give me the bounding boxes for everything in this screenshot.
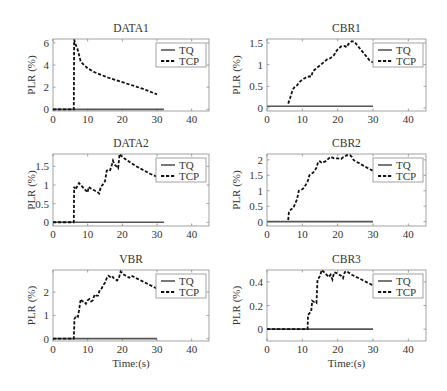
x-tick-label: 20 (332, 343, 344, 355)
y-tick-label: 0.5 (35, 198, 49, 210)
legend-label-tcp: TCP (396, 170, 416, 182)
y-tick-label: 0 (258, 323, 264, 335)
x-tick-label: 0 (50, 343, 56, 355)
x-tick-label: 10 (297, 228, 309, 240)
y-tick-label: 4 (44, 59, 50, 71)
x-tick-label: 30 (152, 343, 164, 355)
y-axis-label: PLR (%) (25, 170, 38, 210)
y-tick-label: 1 (44, 309, 50, 321)
y-tick-label: 1 (44, 179, 50, 191)
y-axis-label: PLR (%) (25, 285, 38, 325)
x-tick-label: 20 (117, 228, 129, 240)
legend-label-tcp: TCP (179, 286, 199, 298)
y-tick-label: 0 (44, 216, 50, 228)
y-tick-label: 0 (44, 333, 50, 345)
y-axis-label: PLR (%) (230, 170, 243, 210)
subplot-data1: 0102030400246DATA1PLR (%)TQTCP (25, 22, 209, 125)
x-tick-label: 10 (82, 228, 94, 240)
legend: TQTCP (373, 43, 423, 67)
x-tick-label: 40 (403, 228, 415, 240)
x-tick-label: 10 (297, 343, 309, 355)
chart-title: CBR2 (332, 137, 361, 149)
chart-title: VBR (119, 253, 143, 265)
y-tick-label: 2 (44, 81, 50, 93)
x-tick-label: 40 (186, 228, 198, 240)
x-tick-label: 40 (403, 113, 415, 125)
y-tick-label: 2 (258, 154, 264, 166)
y-tick-label: 1.5 (35, 160, 49, 172)
y-tick-label: 1 (258, 59, 264, 71)
legend: TQTCP (373, 158, 423, 182)
y-tick-label: 6 (44, 37, 50, 49)
x-tick-label: 20 (117, 113, 129, 125)
figure-canvas: 0102030400246DATA1PLR (%)TQTCP0102030400… (0, 0, 447, 391)
y-tick-label: 1 (258, 185, 264, 197)
y-axis-label: PLR (%) (230, 285, 243, 325)
y-tick-label: 0 (258, 216, 264, 228)
legend: TQTCP (156, 274, 206, 298)
x-tick-label: 40 (186, 343, 198, 355)
subplot-cbr3: 01020304000.20.4CBR3PLR (%)Time:(s)TQTCP (230, 253, 426, 370)
x-tick-label: 0 (264, 228, 270, 240)
y-tick-label: 0.4 (249, 276, 263, 288)
x-tick-label: 0 (264, 343, 270, 355)
legend: TQTCP (373, 274, 423, 298)
chart-title: CBR1 (332, 22, 361, 34)
legend: TQTCP (156, 43, 206, 67)
subplot-cbr1: 01020304000.511.5CBR1PLR (%)TQTCP (230, 22, 426, 125)
y-tick-label: 0.2 (249, 300, 263, 312)
x-tick-label: 30 (152, 113, 164, 125)
chart-title: DATA2 (113, 137, 149, 149)
subplot-data2: 01020304000.511.5DATA2PLR (%)TQTCP (25, 137, 209, 240)
x-tick-label: 10 (297, 113, 309, 125)
legend-label-tcp: TCP (179, 55, 199, 67)
y-tick-label: 2 (44, 286, 50, 298)
y-tick-label: 0 (258, 102, 264, 114)
x-tick-label: 30 (152, 228, 164, 240)
legend-label-tcp: TCP (179, 170, 199, 182)
y-tick-label: 1.5 (249, 37, 263, 49)
x-tick-label: 30 (368, 113, 380, 125)
x-tick-label: 20 (117, 343, 129, 355)
y-tick-label: 0.5 (249, 80, 263, 92)
legend-label-tcp: TCP (396, 55, 416, 67)
x-tick-label: 40 (403, 343, 415, 355)
chart-title: CBR3 (332, 253, 361, 265)
x-axis-label: Time:(s) (112, 357, 150, 370)
x-tick-label: 20 (332, 228, 344, 240)
x-axis-label: Time:(s) (328, 357, 366, 370)
y-axis-label: PLR (%) (230, 55, 243, 95)
legend-label-tcp: TCP (396, 286, 416, 298)
subplot-cbr2: 01020304000.511.52CBR2PLR (%)TQTCP (230, 137, 426, 240)
x-tick-label: 30 (368, 228, 380, 240)
subplot-vbr: 010203040012VBRPLR (%)Time:(s)TQTCP (25, 253, 209, 370)
x-tick-label: 10 (82, 113, 94, 125)
x-tick-label: 0 (50, 228, 56, 240)
legend: TQTCP (156, 158, 206, 182)
x-tick-label: 40 (186, 113, 198, 125)
chart-title: DATA1 (113, 22, 149, 34)
x-tick-label: 0 (50, 113, 56, 125)
x-tick-label: 30 (368, 343, 380, 355)
y-axis-label: PLR (%) (25, 55, 38, 95)
x-tick-label: 0 (264, 113, 270, 125)
y-tick-label: 0 (44, 103, 50, 115)
y-tick-label: 0.5 (249, 200, 263, 212)
y-tick-label: 1.5 (249, 169, 263, 181)
x-tick-label: 20 (332, 113, 344, 125)
x-tick-label: 10 (82, 343, 94, 355)
